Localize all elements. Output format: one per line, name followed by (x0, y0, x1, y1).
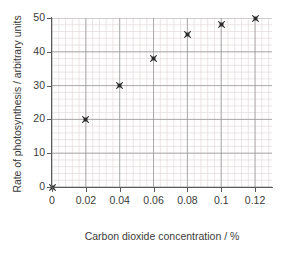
data-point-marker (184, 31, 191, 38)
y-tick-label: 20 (19, 112, 45, 124)
scatter-chart: Rate of photosynthesis / arbitrary units… (0, 0, 292, 254)
x-tick (154, 188, 155, 192)
x-tick (221, 188, 222, 192)
y-axis-line (51, 17, 52, 188)
plot-area (52, 18, 272, 187)
y-tick-label: 10 (19, 146, 45, 158)
y-tick (47, 153, 51, 154)
x-axis-title: Carbon dioxide concentration / % (52, 230, 272, 242)
y-tick-label: 50 (19, 11, 45, 23)
x-tick (52, 188, 53, 192)
data-point-marker (82, 116, 89, 123)
y-tick-label: 0 (19, 180, 45, 192)
x-tick-label: 0.12 (235, 194, 275, 206)
grid-lines (52, 18, 272, 187)
y-axis-title: Rate of photosynthesis / arbitrary units (11, 9, 23, 199)
data-point-marker (252, 15, 259, 22)
y-tick (47, 119, 51, 120)
y-tick (47, 18, 51, 19)
x-tick (255, 188, 256, 192)
x-axis-line (51, 187, 273, 188)
y-tick-label: 30 (19, 79, 45, 91)
x-tick (120, 188, 121, 192)
y-tick-label: 40 (19, 45, 45, 57)
data-point-marker (218, 21, 225, 28)
data-point-marker (150, 55, 157, 62)
data-point-marker (116, 82, 123, 89)
y-tick (47, 187, 51, 188)
x-tick (187, 188, 188, 192)
x-tick (86, 188, 87, 192)
y-tick (47, 52, 51, 53)
y-tick (47, 86, 51, 87)
